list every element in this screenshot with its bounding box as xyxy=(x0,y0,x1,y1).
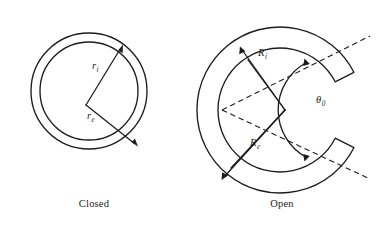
open-theta-arrow-head-bottom xyxy=(303,154,310,162)
closed-re-arrow-line xyxy=(86,105,135,144)
ring-diagram-svg: ri re Ri Re θ0 xyxy=(0,0,376,228)
caption-open: Open xyxy=(188,198,376,209)
closed-ri-label: ri xyxy=(92,60,99,74)
open-theta-label: θ0 xyxy=(316,94,326,108)
open-dashed-line-upper xyxy=(222,36,370,110)
figure-container: ri re Ri Re θ0 xyxy=(0,0,376,228)
closed-re-arrow-head xyxy=(132,139,138,147)
open-theta-arrow-head-top xyxy=(303,59,310,67)
open-notch-edge-upper xyxy=(248,60,285,110)
caption-closed: Closed xyxy=(0,198,188,209)
open-notch-edge-lower xyxy=(231,110,285,168)
closed-ri-arrow-line xyxy=(86,49,121,106)
closed-ring-panel: ri re xyxy=(31,33,147,149)
open-ring-body xyxy=(197,27,354,193)
closed-outer-circle xyxy=(31,33,147,149)
closed-inner-circle xyxy=(40,42,138,140)
open-ring-panel: Ri Re θ0 xyxy=(197,27,370,193)
